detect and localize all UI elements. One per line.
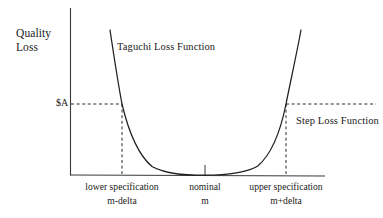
x-tick-upper-specification-line-2: m+delta xyxy=(249,194,322,208)
taguchi-loss-function-label: Taguchi Loss Function xyxy=(117,41,215,53)
y-tick-label-dollar-a: $A xyxy=(56,97,68,109)
x-tick-upper-specification: upper specification m+delta xyxy=(249,180,322,208)
x-tick-lower-specification-line-1: lower specification xyxy=(85,180,158,194)
step-loss-function-label: Step Loss Function xyxy=(296,115,379,127)
x-tick-upper-specification-line-1: upper specification xyxy=(249,180,322,194)
y-axis-title-line-1: Quality xyxy=(16,27,51,41)
y-axis-title: Quality Loss xyxy=(16,27,51,54)
y-axis-title-line-2: Loss xyxy=(16,41,51,55)
taguchi-loss-function-figure: Quality Loss $A Taguchi Loss Function St… xyxy=(0,0,383,218)
x-tick-lower-specification-line-2: m-delta xyxy=(85,194,158,208)
x-tick-nominal-line-1: nominal xyxy=(189,180,220,194)
x-tick-nominal: nominal m xyxy=(189,180,220,208)
x-tick-nominal-line-2: m xyxy=(189,194,220,208)
x-tick-lower-specification: lower specification m-delta xyxy=(85,180,158,208)
